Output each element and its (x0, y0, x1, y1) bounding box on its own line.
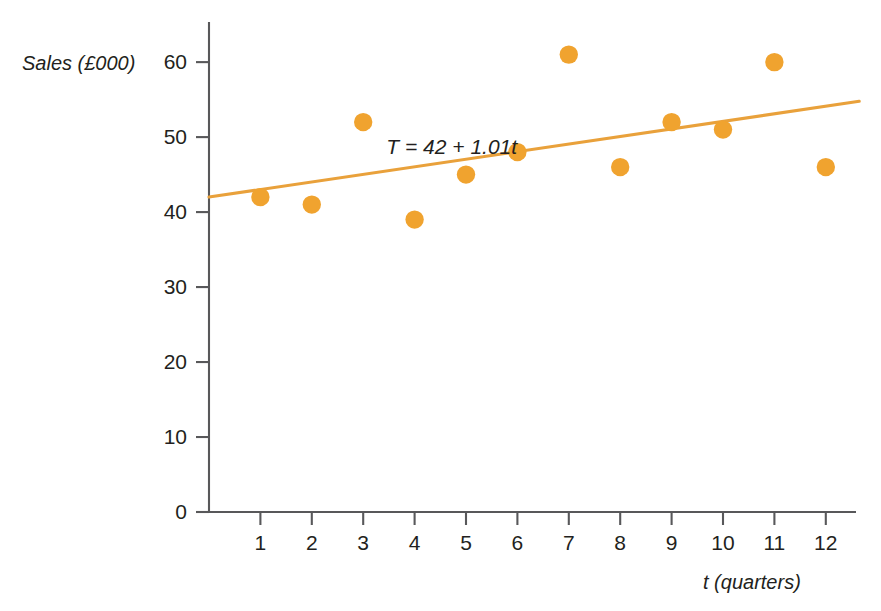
data-point (662, 113, 680, 131)
x-axis-ticks: 123456789101112 (255, 512, 838, 554)
y-axis-tick-label: 10 (164, 425, 187, 448)
scatter-chart: 0102030405060 123456789101112 Sales (£00… (0, 0, 881, 611)
trendline-equation-label: T = 42 + 1.01t (386, 135, 518, 158)
x-axis-tick-label: 12 (814, 531, 837, 554)
x-axis-tick-label: 3 (357, 531, 369, 554)
data-point (560, 45, 578, 63)
axes-group (209, 22, 856, 512)
data-point (714, 120, 732, 138)
x-axis-tick-label: 2 (306, 531, 318, 554)
data-point (817, 158, 835, 176)
x-axis-title: t (quarters) (703, 571, 801, 593)
x-axis-tick-label: 11 (763, 531, 785, 554)
data-point (251, 188, 269, 206)
y-axis-tick-label: 0 (175, 500, 187, 523)
data-point (611, 158, 629, 176)
trendline-group (209, 101, 859, 197)
x-axis-tick-label: 10 (711, 531, 734, 554)
y-axis-title: Sales (£000) (22, 52, 135, 74)
data-point (405, 210, 423, 228)
x-axis-tick-label: 9 (666, 531, 678, 554)
data-point (457, 165, 475, 183)
y-axis-tick-label: 30 (164, 275, 187, 298)
x-axis-tick-label: 8 (614, 531, 626, 554)
x-axis-tick-label: 5 (460, 531, 472, 554)
data-point (765, 53, 783, 71)
x-axis-tick-label: 1 (255, 531, 267, 554)
x-axis-tick-label: 7 (563, 531, 575, 554)
data-points-group (251, 45, 835, 228)
x-axis-tick-label: 4 (409, 531, 421, 554)
y-axis-tick-label: 60 (164, 50, 187, 73)
y-axis-tick-label: 20 (164, 350, 187, 373)
data-point (303, 195, 321, 213)
y-axis-tick-label: 50 (164, 125, 187, 148)
data-point (354, 113, 372, 131)
chart-canvas: 0102030405060 123456789101112 Sales (£00… (0, 0, 881, 611)
y-axis-ticks: 0102030405060 (164, 50, 209, 523)
x-axis-tick-label: 6 (512, 531, 524, 554)
trend-line (209, 101, 859, 197)
y-axis-tick-label: 40 (164, 200, 187, 223)
